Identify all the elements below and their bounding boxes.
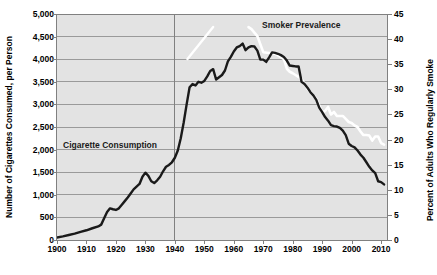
y-axis-left-tick-mark: [52, 127, 56, 128]
x-axis-tick-mark: [175, 241, 176, 244]
x-axis-tick-2000: 2000: [342, 245, 361, 254]
series-label-smoker-prevalence: Smoker Prevalence: [262, 21, 340, 30]
x-axis-tick-1910: 1910: [77, 245, 96, 254]
x-axis-tick-mark: [204, 241, 205, 244]
x-axis-tick-mark: [86, 241, 87, 244]
y-axis-right-tick-5: 5: [394, 211, 399, 220]
y-axis-right-tick-20: 20: [394, 135, 403, 144]
y-axis-left-tick-4500: 4,500: [33, 32, 54, 41]
y-axis-right-tick-40: 40: [394, 35, 403, 44]
y-axis-right-tick-15: 15: [394, 160, 403, 169]
y-axis-left-tick-mark: [52, 82, 56, 83]
y-axis-left-tick-mark: [52, 59, 56, 60]
y-axis-right-tick-mark: [388, 114, 392, 115]
bottom-axis-spine: [56, 240, 388, 241]
y-axis-left-tick-1500: 1,500: [33, 168, 54, 177]
x-axis-tick-mark: [145, 241, 146, 244]
x-axis-tick-mark: [263, 241, 264, 244]
y-axis-left-tick-mark: [52, 104, 56, 105]
y-axis-right-tick-mark: [388, 190, 392, 191]
y-axis-right-tick-mark: [388, 165, 392, 166]
y-axis-right-tick-25: 25: [394, 110, 403, 119]
y-axis-left-tick-mark: [52, 217, 56, 218]
y-axis-right-tick-mark: [388, 64, 392, 65]
y-axis-right-tick-mark: [388, 240, 392, 241]
y-axis-left-tick-mark: [52, 37, 56, 38]
y-axis-left-tick-mark: [52, 14, 56, 15]
x-axis-tick-1950: 1950: [195, 245, 214, 254]
chart-root: 05001,0001,5002,0002,5003,0003,5004,0004…: [0, 0, 437, 275]
y-axis-right-tick-35: 35: [394, 60, 403, 69]
y-axis-right-title: Percent of Adults Who Regularly Smoke: [426, 59, 435, 221]
left-axis-spine: [56, 14, 57, 241]
x-axis-tick-1900: 1900: [48, 245, 67, 254]
y-axis-left-tick-mark: [52, 240, 56, 241]
y-axis-right-tick-mark: [388, 140, 392, 141]
right-axis-spine: [387, 14, 388, 241]
y-axis-right-tick-10: 10: [394, 186, 403, 195]
y-axis-right-tick-mark: [388, 89, 392, 90]
x-axis-tick-mark: [381, 241, 382, 244]
y-axis-left-tick-mark: [52, 172, 56, 173]
x-axis-tick-mark: [116, 241, 117, 244]
x-axis-tick-1920: 1920: [106, 245, 125, 254]
x-axis-tick-1960: 1960: [224, 245, 243, 254]
y-axis-right-tick-mark: [388, 215, 392, 216]
y-axis-left-tick-3500: 3,500: [33, 78, 54, 87]
x-axis-tick-1940: 1940: [165, 245, 184, 254]
annotation-leader-line: [187, 27, 213, 59]
series-lines: [57, 27, 384, 238]
top-axis-spine: [56, 14, 388, 15]
x-axis-tick-1970: 1970: [254, 245, 273, 254]
series-label-cigarette-consumption: Cigarette Consumption: [63, 141, 157, 150]
x-axis-tick-2010: 2010: [372, 245, 391, 254]
x-axis-tick-mark: [322, 241, 323, 244]
y-axis-right-tick-0: 0: [394, 236, 399, 245]
y-axis-left-tick-3000: 3,000: [33, 100, 54, 109]
plot-canvas: [57, 14, 387, 240]
y-axis-right-tick-30: 30: [394, 85, 403, 94]
y-axis-left-tick-4000: 4,000: [33, 55, 54, 64]
y-axis-left-title: Number of Cigarettes Consumed, per Perso…: [5, 36, 14, 218]
y-axis-left-tick-1000: 1,000: [33, 191, 54, 200]
x-axis-tick-mark: [352, 241, 353, 244]
x-axis-tick-1990: 1990: [313, 245, 332, 254]
x-axis-tick-mark: [293, 241, 294, 244]
y-axis-right-tick-45: 45: [394, 10, 403, 19]
x-axis-tick-1980: 1980: [283, 245, 302, 254]
y-axis-left-tick-mark: [52, 195, 56, 196]
y-axis-left-tick-2500: 2,500: [33, 123, 54, 132]
x-axis-tick-1930: 1930: [136, 245, 155, 254]
y-axis-right-tick-mark: [388, 14, 392, 15]
x-axis-tick-mark: [57, 241, 58, 244]
plot-area: [57, 14, 387, 240]
y-axis-left-tick-5000: 5,000: [33, 10, 54, 19]
y-axis-right-tick-mark: [388, 39, 392, 40]
y-axis-left-tick-mark: [52, 150, 56, 151]
y-axis-left-tick-2000: 2,000: [33, 145, 54, 154]
x-axis-tick-mark: [234, 241, 235, 244]
